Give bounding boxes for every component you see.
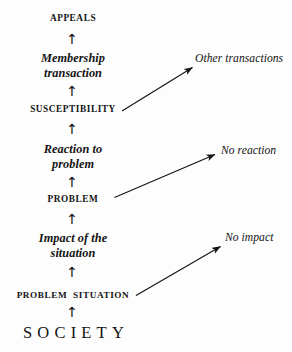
node-membership-transaction: Membership transaction [0,51,146,81]
node-problem-situation: PROBLEM SITUATION [0,290,146,300]
node-reaction-to-problem: Reaction to problem [0,142,146,172]
up-arrow-icon-7: ↑ [65,305,79,319]
up-arrow-icon-6: ↑ [65,265,79,279]
up-arrow-icon-4: ↑ [65,175,79,189]
node-impact-of-the-situation: Impact of the situation [0,231,146,261]
node-problem: PROBLEM [0,194,146,204]
node-appeals: APPEALS [0,13,146,23]
up-arrow-icon-2: ↑ [65,84,79,98]
up-arrow-icon-3: ↑ [65,122,79,136]
branch-arrow-no-impact [136,247,221,296]
diagram-canvas: APPEALS ↑ Membership transaction ↑ SUSCE… [0,0,292,352]
branch-label-no-impact: No impact [225,231,291,244]
up-arrow-icon-5: ↑ [65,212,79,226]
branch-label-no-reaction: No reaction [221,144,292,157]
branch-label-other-transactions: Other transactions [195,52,292,65]
node-society: SOCIETY [0,324,152,342]
node-susceptibility: SUSCEPTIBILITY [0,104,146,114]
up-arrow-icon-1: ↑ [65,32,79,46]
